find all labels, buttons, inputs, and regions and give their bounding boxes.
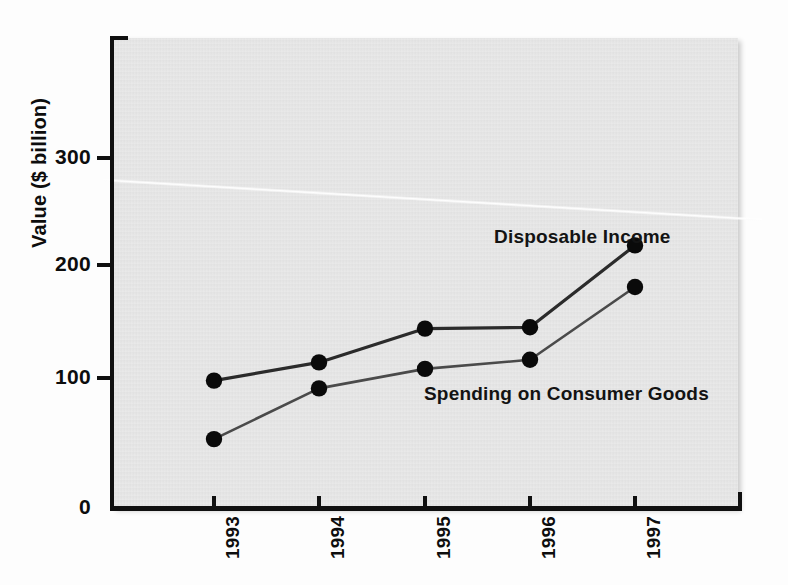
y-axis-title: Value ($ billion) bbox=[28, 98, 51, 248]
x-axis-label-1995: 1995 bbox=[433, 516, 455, 559]
y-axis-label-200: 200 bbox=[55, 252, 91, 276]
x-axis-tick-1997 bbox=[633, 496, 637, 510]
y-axis-tick-100 bbox=[97, 376, 113, 380]
scan-crease-artifact bbox=[103, 178, 762, 222]
line-chart-figure: 300 200 100 0 Value ($ billion) 1993 199… bbox=[0, 0, 788, 585]
y-axis-line bbox=[110, 36, 114, 510]
y-axis-label-100: 100 bbox=[55, 365, 91, 389]
plot-area bbox=[113, 38, 738, 508]
x-axis-label-1994: 1994 bbox=[327, 516, 349, 559]
x-axis-label-1996: 1996 bbox=[538, 516, 560, 559]
x-axis-tick-1995 bbox=[423, 496, 427, 510]
paper-grain-texture bbox=[113, 38, 738, 508]
x-axis-tick-1996 bbox=[528, 496, 532, 510]
y-axis-tick-300 bbox=[97, 156, 113, 160]
y-axis-tick-top bbox=[110, 36, 128, 40]
series-label-spending-consumer-goods: Spending on Consumer Goods bbox=[424, 383, 709, 405]
y-axis-tick-200 bbox=[97, 263, 113, 267]
x-axis-tick-1993 bbox=[212, 496, 216, 510]
y-axis-label-300: 300 bbox=[55, 145, 91, 169]
y-axis-label-0: 0 bbox=[79, 495, 91, 519]
x-axis-tick-1994 bbox=[317, 496, 321, 510]
x-axis-tick-end bbox=[738, 492, 742, 510]
x-axis-label-1993: 1993 bbox=[222, 516, 244, 559]
series-label-disposable-income: Disposable Income bbox=[494, 226, 671, 248]
x-axis-label-1997: 1997 bbox=[643, 516, 665, 559]
